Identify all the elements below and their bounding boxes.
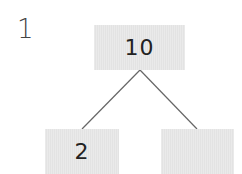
connector-right [140, 70, 197, 129]
root-node-value: 10 [125, 35, 155, 60]
connector-left [82, 70, 140, 129]
right-child-answer-box[interactable] [161, 129, 234, 174]
root-node-box: 10 [94, 25, 185, 70]
left-child-value: 2 [75, 139, 90, 164]
left-child-box: 2 [45, 129, 119, 174]
